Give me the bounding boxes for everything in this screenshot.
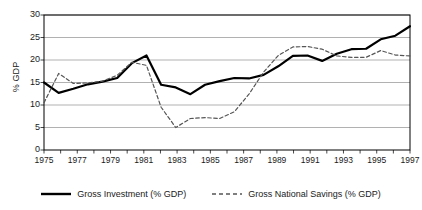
chart-container: % GDP 051015202530 197519771979198119831… — [0, 0, 422, 210]
x-tick-label: 1979 — [96, 156, 126, 165]
x-tick-label: 1987 — [229, 156, 259, 165]
x-axis-ticks: 1975197719791981198319851987198919911993… — [0, 0, 422, 210]
legend-swatch-solid-icon — [41, 190, 71, 198]
legend-item-gross-national-savings: Gross National Savings (% GDP) — [212, 189, 381, 199]
chart-legend: Gross Investment (% GDP) Gross National … — [0, 186, 422, 202]
x-tick-label: 1985 — [195, 156, 225, 165]
x-tick-label: 1995 — [362, 156, 392, 165]
x-tick-label: 1993 — [328, 156, 358, 165]
legend-item-gross-investment: Gross Investment (% GDP) — [41, 189, 186, 199]
legend-swatch-dashed-icon — [212, 190, 242, 198]
x-tick-label: 1991 — [295, 156, 325, 165]
x-tick-label: 1975 — [29, 156, 59, 165]
legend-label-gross-national-savings: Gross National Savings (% GDP) — [248, 189, 381, 199]
x-tick-label: 1977 — [62, 156, 92, 165]
x-tick-label: 1989 — [262, 156, 292, 165]
legend-label-gross-investment: Gross Investment (% GDP) — [77, 189, 186, 199]
x-tick-label: 1997 — [395, 156, 422, 165]
x-tick-label: 1981 — [129, 156, 159, 165]
x-tick-label: 1983 — [162, 156, 192, 165]
